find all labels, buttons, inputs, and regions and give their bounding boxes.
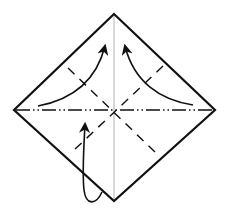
arrow-fold-behind-icon (83, 124, 102, 202)
origami-diagram: Origami folding step (0, 0, 227, 214)
valley-fold-line-2 (72, 66, 163, 152)
arrow-upper-right-icon (125, 46, 193, 105)
diagram-svg (0, 0, 227, 214)
